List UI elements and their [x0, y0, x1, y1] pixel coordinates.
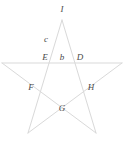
vertex-label-c: c: [44, 35, 48, 44]
edge-bottom-right-to-left: [2, 63, 96, 133]
edge-apex-to-bottom-right: [62, 20, 96, 133]
vertex-label-E: E: [42, 53, 48, 62]
pentagram-figure: IcEbDFHG: [0, 0, 124, 141]
vertex-label-F: F: [28, 83, 34, 92]
vertex-label-b: b: [60, 53, 65, 62]
vertex-label-G: G: [59, 104, 66, 113]
vertex-label-H: H: [88, 83, 95, 92]
pentagram-lines: [0, 0, 124, 141]
vertex-label-D: D: [77, 53, 84, 62]
edge-right-to-bottom-left: [28, 63, 122, 133]
vertex-label-I: I: [61, 5, 64, 14]
star-edge-group: [2, 20, 122, 133]
